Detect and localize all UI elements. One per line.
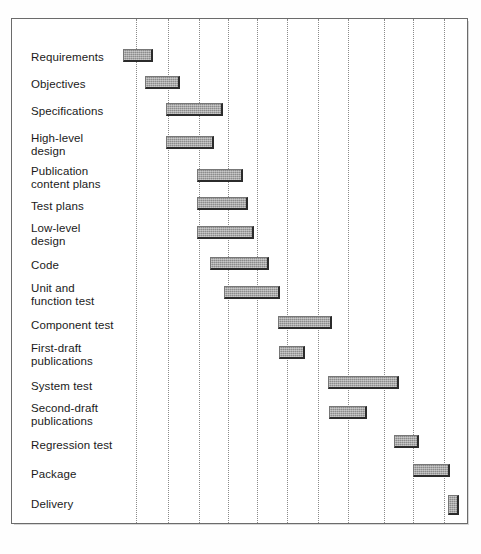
task-bar <box>448 495 459 515</box>
gridline-7 <box>318 19 319 523</box>
task-label: First-draft publications <box>31 342 93 367</box>
task-label: Publication content plans <box>31 165 101 190</box>
task-label: High-level design <box>31 132 83 157</box>
task-label: Package <box>31 468 76 481</box>
task-label: Delivery <box>31 498 73 511</box>
gridline-1 <box>136 19 137 523</box>
task-bar <box>394 435 419 448</box>
task-bar <box>197 226 254 239</box>
task-bar <box>279 346 305 359</box>
gridline-4 <box>228 19 229 523</box>
task-bar <box>145 76 180 89</box>
task-bar <box>278 316 332 329</box>
gridline-8 <box>348 19 349 523</box>
task-label: Unit and function test <box>31 282 94 307</box>
chart-frame: RequirementsObjectivesSpecificationsHigh… <box>11 18 468 524</box>
plot-area: RequirementsObjectivesSpecificationsHigh… <box>12 19 467 523</box>
task-bar <box>210 257 269 270</box>
gridline-9 <box>384 19 385 523</box>
task-bar <box>166 103 223 116</box>
gridline-6 <box>287 19 288 523</box>
task-label: Objectives <box>31 78 86 91</box>
task-label: Code <box>31 259 59 272</box>
task-bar <box>329 406 367 419</box>
gantt-chart-canvas: RequirementsObjectivesSpecificationsHigh… <box>0 0 481 554</box>
task-bar <box>123 49 153 62</box>
task-bar <box>224 286 280 299</box>
task-bar <box>413 464 450 477</box>
task-label: System test <box>31 380 92 393</box>
task-bar <box>328 376 399 389</box>
task-bar <box>166 136 214 149</box>
gridline-11 <box>444 19 445 523</box>
task-label: Second-draft publications <box>31 402 98 427</box>
gridline-2 <box>168 19 169 523</box>
task-label: Component test <box>31 319 114 332</box>
task-label: Requirements <box>31 51 104 64</box>
task-label: Regression test <box>31 439 112 452</box>
task-label: Specifications <box>31 105 103 118</box>
gridline-5 <box>257 19 258 523</box>
task-bar <box>197 197 248 210</box>
gridline-3 <box>199 19 200 523</box>
task-bar <box>197 169 243 182</box>
task-label: Test plans <box>31 200 84 213</box>
task-label: Low-level design <box>31 222 80 247</box>
